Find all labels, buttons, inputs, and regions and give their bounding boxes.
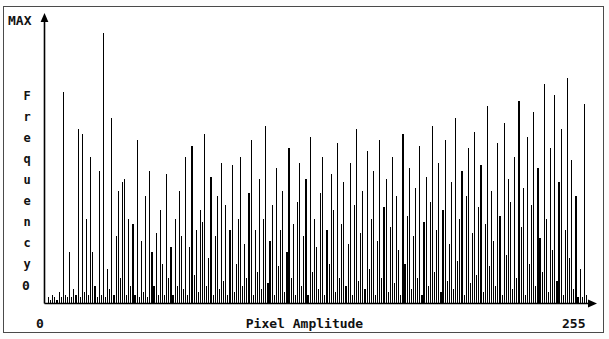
histogram-bar: [537, 168, 538, 303]
histogram-bar: [554, 95, 555, 303]
histogram-bar: [335, 292, 336, 303]
histogram-bar: [276, 168, 277, 303]
histogram-bar: [360, 233, 361, 303]
histogram-bar: [371, 219, 372, 303]
histogram-bar: [404, 264, 405, 303]
histogram-bar: [525, 295, 526, 303]
histogram-bar: [151, 252, 152, 303]
histogram-bar: [331, 174, 332, 303]
histogram-bar: [172, 295, 173, 303]
histogram-bar: [242, 286, 243, 303]
histogram-bar: [320, 193, 321, 303]
histogram-bar: [63, 92, 64, 303]
histogram-bar: [413, 236, 414, 303]
y-axis-title-letter: q: [20, 149, 34, 170]
histogram-bar: [468, 148, 469, 303]
histogram-bar: [447, 281, 448, 303]
histogram-bar: [251, 140, 252, 303]
histogram-bar: [491, 191, 492, 303]
histogram-bar: [476, 275, 477, 303]
histogram-bar: [394, 283, 395, 303]
histogram-bar: [71, 297, 72, 303]
histogram-bar: [527, 137, 528, 303]
histogram-bar: [105, 297, 106, 303]
histogram-bar: [107, 269, 108, 303]
histogram-bar: [392, 157, 393, 303]
histogram-bar: [348, 244, 349, 303]
histogram-bar: [396, 196, 397, 303]
histogram-bar: [134, 295, 135, 303]
histogram-bar: [499, 216, 500, 303]
histogram-bar: [263, 219, 264, 303]
histogram-bar: [116, 236, 117, 303]
histogram-bar: [423, 222, 424, 303]
histogram-bar: [61, 297, 62, 303]
histogram-bar: [50, 300, 51, 303]
histogram-bar: [373, 171, 374, 303]
histogram-bar: [506, 255, 507, 303]
histogram-bar: [495, 286, 496, 303]
histogram-bar: [223, 281, 224, 303]
histogram-bar: [343, 182, 344, 303]
histogram-bar: [244, 244, 245, 303]
histogram-bar: [291, 278, 292, 303]
histogram-bar: [265, 126, 266, 303]
histogram-bar: [78, 129, 79, 303]
histogram-bar: [466, 196, 467, 303]
histogram-bar: [339, 278, 340, 303]
histogram-bar: [521, 227, 522, 303]
histogram-bar: [145, 196, 146, 303]
histogram-bar: [153, 286, 154, 303]
histogram-bar: [307, 295, 308, 303]
histogram-bar: [293, 224, 294, 303]
histogram-bar: [253, 295, 254, 303]
histogram-bar: [552, 250, 553, 303]
x-axis-max-label: 255: [562, 316, 585, 331]
histogram-bar: [232, 165, 233, 303]
histogram-bar: [428, 286, 429, 303]
histogram-bar: [571, 160, 572, 303]
histogram-bar: [217, 196, 218, 303]
histogram-bar: [139, 297, 140, 303]
histogram-bar: [548, 292, 549, 303]
histogram-bar: [67, 297, 68, 303]
histogram-bar: [206, 286, 207, 303]
histogram-bar: [130, 286, 131, 303]
histogram-bar: [436, 230, 437, 303]
histogram-bar: [575, 196, 576, 303]
histogram-bar: [305, 179, 306, 303]
histogram-bar: [162, 264, 163, 303]
histogram-bar: [196, 230, 197, 303]
y-axis-title: Frequency: [20, 86, 34, 275]
histogram-bar: [584, 104, 585, 304]
histogram-bar: [329, 264, 330, 303]
y-axis-title-letter: r: [20, 107, 34, 128]
histogram-bar: [415, 188, 416, 303]
histogram-bar: [286, 252, 287, 303]
histogram-bar: [333, 210, 334, 303]
histogram-bar: [493, 241, 494, 303]
histogram-bar: [518, 101, 519, 303]
histogram-bar: [111, 118, 112, 303]
histogram-bar: [101, 295, 102, 303]
histogram-bar: [191, 146, 192, 303]
histogram-bar: [510, 202, 511, 303]
histogram-bar: [487, 106, 488, 303]
histogram-bar: [455, 118, 456, 303]
histogram-bar: [259, 179, 260, 303]
histogram-bar: [457, 261, 458, 303]
histogram-bar: [238, 219, 239, 303]
histogram-bar: [483, 292, 484, 303]
histogram-bar: [278, 266, 279, 303]
histogram-bar: [369, 269, 370, 303]
histogram-bar: [324, 295, 325, 303]
y-axis-zero-label: 0: [22, 279, 30, 292]
histogram-bar: [577, 297, 578, 303]
histogram-bar: [535, 286, 536, 303]
histogram-figure: MAX 0 Frequency 0 Pixel Amplitude 255: [0, 0, 609, 339]
histogram-bar: [377, 241, 378, 303]
histogram-bar: [516, 278, 517, 303]
histogram-bar: [69, 252, 70, 303]
histogram-bar: [227, 295, 228, 303]
histogram-bar: [137, 140, 138, 303]
